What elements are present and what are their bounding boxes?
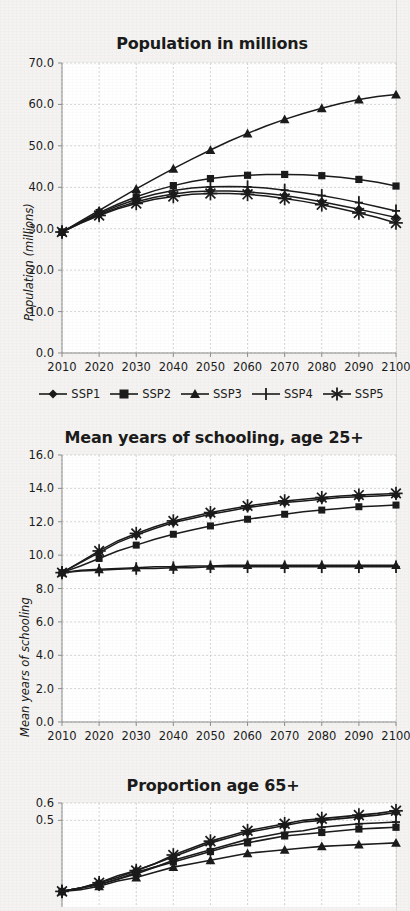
svg-text:2100: 2100 [381, 729, 410, 743]
legend-label-ssp4: SSP4 [284, 387, 313, 401]
chart-title-population: Population in millions [0, 34, 410, 53]
plot-area-proportion65: 0.50.6 [0, 795, 410, 907]
svg-text:2020: 2020 [84, 729, 113, 743]
svg-text:2060: 2060 [233, 729, 262, 743]
svg-text:2.0: 2.0 [36, 682, 54, 696]
proportion65-plot-svg: 0.50.6 [0, 795, 410, 907]
plus-marker-icon [251, 387, 281, 401]
svg-text:2010: 2010 [47, 729, 76, 743]
svg-text:6.0: 6.0 [36, 615, 54, 629]
svg-text:16.0: 16.0 [28, 448, 54, 462]
svg-text:2050: 2050 [196, 360, 225, 374]
svg-text:8.0: 8.0 [36, 582, 54, 596]
svg-text:0.6: 0.6 [36, 796, 54, 810]
chart-title-schooling: Mean years of schooling, age 25+ [0, 428, 410, 447]
svg-text:2040: 2040 [159, 729, 188, 743]
chart-population: Population in millions Population (milli… [0, 34, 410, 406]
svg-text:70.0: 70.0 [28, 56, 54, 70]
svg-text:2020: 2020 [84, 360, 113, 374]
legend-label-ssp2: SSP2 [142, 387, 171, 401]
svg-text:2050: 2050 [196, 729, 225, 743]
y-axis-label-schooling: Mean years of schooling [18, 597, 32, 737]
scanned-page: Population in millions Population (milli… [0, 0, 410, 911]
svg-text:2090: 2090 [344, 360, 373, 374]
svg-text:2060: 2060 [233, 360, 262, 374]
svg-text:0.0: 0.0 [36, 346, 54, 360]
chart-schooling: Mean years of schooling, age 25+ Mean ye… [0, 428, 410, 758]
svg-text:2070: 2070 [270, 729, 299, 743]
svg-text:2040: 2040 [159, 360, 188, 374]
svg-text:2090: 2090 [344, 729, 373, 743]
diamond-marker-icon [38, 387, 68, 401]
legend-label-ssp1: SSP1 [71, 387, 100, 401]
svg-text:2100: 2100 [381, 360, 410, 374]
svg-text:10.0: 10.0 [28, 548, 54, 562]
legend-item-ssp4[interactable]: SSP4 [251, 387, 313, 401]
legend-item-ssp2[interactable]: SSP2 [109, 387, 171, 401]
legend-item-ssp5[interactable]: SSP5 [322, 387, 384, 401]
svg-text:2080: 2080 [307, 360, 336, 374]
svg-text:14.0: 14.0 [28, 481, 54, 495]
legend-label-ssp5: SSP5 [355, 387, 384, 401]
legend-item-ssp3[interactable]: SSP3 [180, 387, 242, 401]
svg-text:0.0: 0.0 [36, 715, 54, 729]
asterisk-marker-icon [322, 387, 352, 401]
svg-text:40.0: 40.0 [28, 180, 54, 194]
schooling-plot-svg: 0.02.04.06.08.010.012.014.016.0201020202… [0, 447, 410, 752]
svg-text:4.0: 4.0 [36, 648, 54, 662]
chart-title-proportion65: Proportion age 65+ [0, 776, 410, 795]
legend-item-ssp1[interactable]: SSP1 [38, 387, 100, 401]
triangle-marker-icon [180, 387, 210, 401]
y-axis-label-population: Population (millions) [22, 203, 36, 321]
square-marker-icon [109, 387, 139, 401]
svg-text:2030: 2030 [122, 729, 151, 743]
svg-text:50.0: 50.0 [28, 139, 54, 153]
svg-text:2010: 2010 [47, 360, 76, 374]
svg-text:60.0: 60.0 [28, 97, 54, 111]
svg-text:2030: 2030 [122, 360, 151, 374]
svg-text:2080: 2080 [307, 729, 336, 743]
svg-text:2070: 2070 [270, 360, 299, 374]
svg-text:12.0: 12.0 [28, 515, 54, 529]
legend-label-ssp3: SSP3 [213, 387, 242, 401]
chart-proportion65: Proportion age 65+ 0.50.6 [0, 776, 410, 911]
plot-area-schooling: Mean years of schooling 0.02.04.06.08.01… [0, 447, 410, 752]
svg-text:0.5: 0.5 [36, 813, 54, 827]
population-plot-svg: 0.010.020.030.040.050.060.070.0201020202… [0, 53, 410, 383]
legend-population: SSP1 SSP2 SSP3 [0, 387, 410, 401]
plot-area-population: Population (millions) 0.010.020.030.040.… [0, 53, 410, 383]
